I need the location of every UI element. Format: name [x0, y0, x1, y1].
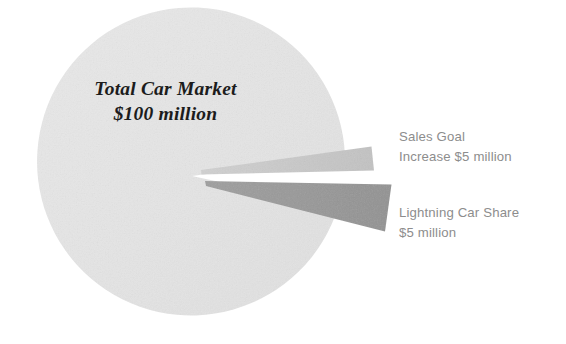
callout-sales-goal-line-1: Sales Goal — [399, 127, 512, 147]
pie-chart-page: Total Car Market $100 million Sales Goal… — [0, 0, 566, 344]
callout-sales-goal-line-2: Increase $5 million — [399, 147, 512, 167]
callout-lightning-car-share-line-1: Lightning Car Share — [399, 203, 519, 223]
callout-lightning-car-share-line-2: $5 million — [399, 223, 519, 243]
callout-sales-goal: Sales Goal Increase $5 million — [399, 127, 512, 166]
callout-lightning-car-share: Lightning Car Share $5 million — [399, 203, 519, 242]
pie-chart-figure — [0, 0, 566, 344]
